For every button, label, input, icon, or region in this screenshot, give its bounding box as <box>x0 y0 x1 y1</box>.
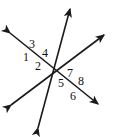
line-parallel-upper <box>10 33 98 104</box>
angle-label-1: 1 <box>23 51 29 63</box>
lines-group <box>10 9 104 128</box>
angle-label-8: 8 <box>78 75 84 87</box>
angle-label-4: 4 <box>42 47 48 59</box>
angle-label-7: 7 <box>67 67 73 79</box>
geometry-canvas <box>0 0 116 137</box>
angle-label-5: 5 <box>58 77 64 89</box>
angle-label-3: 3 <box>29 38 35 50</box>
geometry-figure: 1 2 3 4 5 6 7 8 <box>0 0 116 137</box>
angle-label-2: 2 <box>35 60 41 72</box>
angle-label-6: 6 <box>70 90 76 102</box>
